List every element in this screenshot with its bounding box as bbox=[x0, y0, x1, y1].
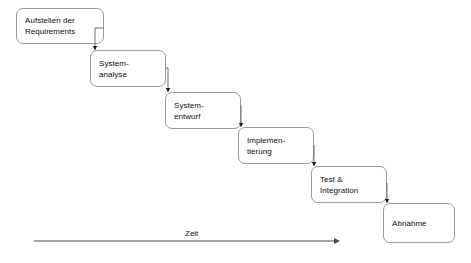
time-axis-label: Zeit bbox=[185, 229, 198, 238]
time-axis-arrowhead bbox=[334, 238, 340, 244]
time-axis bbox=[0, 0, 471, 263]
waterfall-diagram-canvas: Aufstellen der Requirements System- anal… bbox=[0, 0, 471, 263]
